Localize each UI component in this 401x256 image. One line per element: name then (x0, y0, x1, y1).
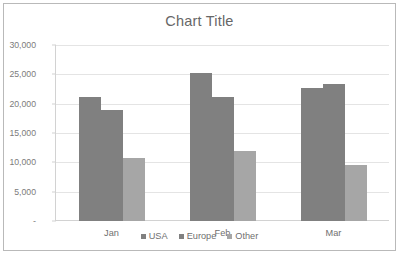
legend-item-other[interactable]: Other (227, 231, 258, 241)
chart-title[interactable]: Chart Title (4, 13, 395, 29)
legend-swatch-icon (227, 234, 232, 239)
legend-swatch-icon (141, 234, 146, 239)
y-axis-tick-mark (52, 103, 56, 104)
bar-usa-feb[interactable] (190, 73, 212, 221)
gridline (56, 45, 389, 46)
legend-item-label: USA (149, 231, 168, 241)
bar-other-mar[interactable] (345, 165, 367, 221)
bar-usa-mar[interactable] (301, 88, 323, 221)
legend-item-label: Europe (187, 231, 217, 241)
y-axis-tick-label: 15,000 (0, 128, 36, 138)
legend-item-label: Other (235, 231, 258, 241)
legend-item-europe[interactable]: Europe (179, 231, 217, 241)
y-axis-tick-mark (52, 221, 56, 222)
legend-swatch-icon (179, 234, 184, 239)
y-axis-tick-label: 5,000 (0, 187, 36, 197)
gridline (56, 74, 389, 75)
chart-legend[interactable]: USAEuropeOther (4, 231, 395, 241)
y-axis-tick-mark (52, 133, 56, 134)
y-axis-tick-label: 20,000 (0, 99, 36, 109)
bar-europe-jan[interactable] (101, 110, 123, 221)
chart-container[interactable]: Chart Title -5,00010,00015,00020,00025,0… (3, 3, 396, 251)
y-axis-tick-mark (52, 74, 56, 75)
bar-usa-jan[interactable] (79, 97, 101, 221)
bar-other-feb[interactable] (234, 151, 256, 221)
y-axis-tick-label: - (0, 216, 36, 226)
y-axis-tick-label: 25,000 (0, 69, 36, 79)
bar-europe-feb[interactable] (212, 97, 234, 221)
plot-area[interactable]: -5,00010,00015,00020,00025,00030,000JanF… (56, 45, 389, 221)
y-axis-tick-label: 10,000 (0, 157, 36, 167)
bar-europe-mar[interactable] (323, 84, 345, 221)
legend-item-usa[interactable]: USA (141, 231, 168, 241)
y-axis-tick-label: 30,000 (0, 40, 36, 50)
bar-other-jan[interactable] (123, 158, 145, 221)
y-axis-tick-mark (52, 162, 56, 163)
y-axis-tick-mark (52, 45, 56, 46)
y-axis-tick-mark (52, 191, 56, 192)
